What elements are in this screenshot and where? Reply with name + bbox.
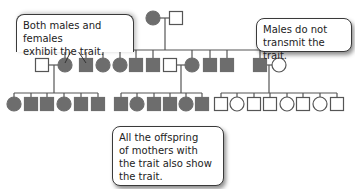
callout-offspring-of-mothers: All the offspring of mothers with the tr… bbox=[112, 126, 224, 186]
callout-both-sexes: Both males and females exhibit the trait… bbox=[16, 14, 134, 52]
callout-males-do-not-transmit: Males do not transmit the trait. bbox=[256, 18, 352, 52]
